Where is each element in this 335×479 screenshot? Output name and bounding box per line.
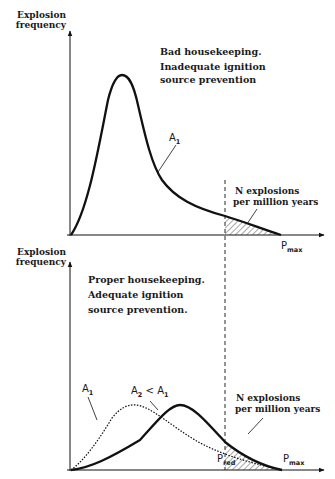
top-curve-a1 [71,75,281,235]
top-tail-pointer [247,209,257,224]
bottom-x-label-pred: Pred [217,453,235,467]
top-tail-line2: per million years [233,197,318,208]
bottom-a1-pointer [88,397,97,420]
bottom-a1-sub: 1 [89,389,94,397]
bottom-a2-pointer [150,401,158,410]
bottom-tail-line1: N explosions [235,393,320,404]
bottom-desc-line3: source prevention. [88,304,205,316]
top-a1-pointer [158,145,176,172]
bottom-desc-line1: Proper housekeeping. [88,274,205,286]
bottom-tail-line2: per million years [235,404,320,415]
bottom-tail-pointer [248,418,263,434]
bottom-y-label-line1: Explosion [6,247,66,257]
bottom-a1b-text: A [157,385,164,396]
top-desc-line1: Bad housekeeping. [160,46,266,58]
top-y-axis-label: Explosion frequency [6,10,66,30]
top-a1-text: A [169,132,176,143]
bottom-tail-note: N explosions per million years [235,393,320,415]
bottom-a2-lt-a1-label: A2 < A1 [131,385,169,399]
bottom-x-label-pmax: Pmax [283,453,304,467]
top-desc-line2: Inadequate ignition [160,61,266,73]
bottom-a1-text: A [82,383,89,394]
top-x-label-pmax: Pmax [281,240,302,254]
top-y-label-line1: Explosion [6,10,66,20]
bottom-a1-label: A1 [82,383,93,397]
top-pmax-sub: max [287,246,302,254]
top-y-label-line2: frequency [6,20,66,30]
bottom-y-label-line2: frequency [6,257,66,267]
bottom-y-axis-label: Explosion frequency [6,247,66,267]
bottom-desc-line2: Adequate ignition [88,289,205,301]
top-tail-note: N explosions per million years [233,186,318,208]
bottom-pmax-sub: max [289,459,304,467]
bottom-description: Proper housekeeping. Adequate ignition s… [88,274,205,316]
top-a1-label: A1 [169,132,180,146]
bottom-a1b-sub: 1 [164,391,169,399]
bottom-lt-sign: < [142,385,157,396]
top-desc-line3: source prevention [160,74,266,86]
top-tail-line1: N explosions [233,186,318,197]
top-a1-sub: 1 [176,138,181,146]
bottom-a2-text: A [131,385,138,396]
top-description: Bad housekeeping. Inadequate ignition so… [160,46,266,86]
bottom-pred-sub: red [223,459,235,467]
